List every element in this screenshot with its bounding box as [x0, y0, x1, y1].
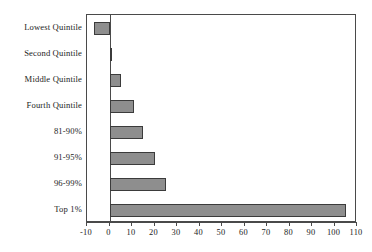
x-tick-label: 20 [149, 228, 158, 238]
x-tick-label: 0 [106, 228, 110, 238]
category-label: Second Quintile [0, 49, 82, 58]
bars-container [87, 15, 355, 221]
plot-area [86, 14, 356, 222]
x-tick-mark [356, 222, 357, 226]
category-label: 96-99% [0, 179, 82, 188]
bar [110, 178, 166, 191]
x-tick-label: 10 [127, 228, 136, 238]
x-tick-label: 50 [217, 228, 226, 238]
category-label: Fourth Quintile [0, 101, 82, 110]
x-tick-mark [154, 222, 155, 226]
x-tick-label: 40 [194, 228, 203, 238]
x-tick-mark [266, 222, 267, 226]
x-tick-mark [244, 222, 245, 226]
category-label: 91-95% [0, 153, 82, 162]
x-tick-label: 60 [239, 228, 248, 238]
x-tick-mark [289, 222, 290, 226]
x-tick-label: -10 [80, 228, 92, 238]
x-tick-mark [109, 222, 110, 226]
bar [110, 74, 121, 87]
x-tick-mark [176, 222, 177, 226]
category-axis-labels: Lowest QuintileSecond QuintileMiddle Qui… [0, 14, 82, 222]
category-label: Middle Quintile [0, 75, 82, 84]
bar [110, 204, 346, 217]
x-tick-mark [86, 222, 87, 226]
bar [94, 22, 110, 35]
x-tick-label: 110 [350, 228, 363, 238]
x-tick-label: 70 [262, 228, 271, 238]
x-tick-label: 90 [307, 228, 316, 238]
x-tick-mark [199, 222, 200, 226]
x-axis-ticks: -100102030405060708090100110 [0, 222, 372, 252]
bar [110, 48, 112, 61]
bar-chart: Lowest QuintileSecond QuintileMiddle Qui… [0, 0, 372, 252]
x-tick-mark [131, 222, 132, 226]
x-tick-label: 30 [172, 228, 181, 238]
category-label: Top 1% [0, 205, 82, 214]
x-tick-mark [221, 222, 222, 226]
x-tick-label: 80 [284, 228, 293, 238]
x-tick-mark [311, 222, 312, 226]
category-label: 81-90% [0, 127, 82, 136]
x-tick-mark [334, 222, 335, 226]
bar [110, 100, 135, 113]
x-tick-label: 100 [327, 228, 340, 238]
category-label: Lowest Quintile [0, 23, 82, 32]
bar [110, 126, 144, 139]
bar [110, 152, 155, 165]
